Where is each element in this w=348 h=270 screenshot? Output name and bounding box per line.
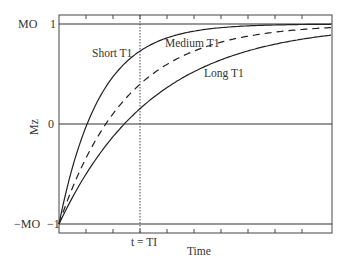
- short-t1-label: Short T1: [92, 47, 133, 59]
- inversion-recovery-chart: MO 1 0 −MO −1 Mz Short T1 Medium T1 Long…: [0, 0, 348, 270]
- y-axis-label: Mz: [27, 119, 41, 135]
- y-tick-neg1: −1: [47, 217, 60, 231]
- long-t1-curve: [59, 35, 331, 224]
- x-axis-label: Time: [187, 245, 211, 257]
- long-t1-label: Long T1: [204, 67, 244, 80]
- ti-label: t = TI: [131, 236, 157, 248]
- medium-t1-label: Medium T1: [165, 37, 220, 49]
- mo-top-label: MO: [18, 17, 38, 31]
- mo-bottom-label: −MO: [14, 217, 40, 231]
- y-tick-0: 0: [48, 117, 54, 131]
- y-tick-1: 1: [50, 17, 56, 31]
